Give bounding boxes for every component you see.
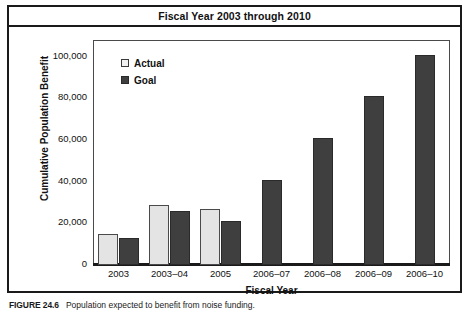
bar-group [399, 40, 450, 265]
legend-label-goal: Goal [134, 75, 156, 86]
x-tick-label: 2006–09 [355, 268, 392, 279]
x-tick-label: 2003 [108, 268, 129, 279]
y-tick-label: 60,000 [58, 132, 87, 143]
bar-group [297, 40, 348, 265]
bar-goal [262, 180, 282, 265]
bar-actual [149, 205, 169, 265]
x-axis-tick-labels: 20032003–0420052006–072006–082006–092006… [93, 268, 450, 284]
x-tick-label: 2006–08 [304, 268, 341, 279]
chart-body: Cumulative Population Benefit 020,00040,… [9, 27, 460, 291]
bar-goal [221, 221, 241, 265]
chart-legend: Actual Goal [121, 55, 207, 89]
y-tick-label: 40,000 [58, 174, 87, 185]
y-tick-label: 20,000 [58, 216, 87, 227]
y-tick-label: 80,000 [58, 91, 87, 102]
bar-goal [415, 55, 435, 265]
y-axis-tick-labels: 020,00040,00060,00080,000100,000 [37, 60, 87, 245]
x-tick-label: 2006–10 [406, 268, 443, 279]
bar-goal [313, 138, 333, 265]
legend-swatch-actual-icon [121, 59, 129, 67]
legend-label-actual: Actual [134, 58, 165, 69]
legend-swatch-goal-icon [121, 76, 129, 84]
chart-title-bar: Fiscal Year 2003 through 2010 [9, 7, 460, 27]
y-tick-label: 0 [82, 258, 87, 269]
x-axis-title: Fiscal Year [93, 285, 450, 296]
bar-goal [119, 238, 139, 265]
x-tick-label: 2005 [210, 268, 231, 279]
x-tick-label: 2003–04 [151, 268, 188, 279]
bar-actual [200, 209, 220, 265]
bar-goal [364, 96, 384, 265]
bar-group [246, 40, 297, 265]
figure-caption-text: Population expected to benefit from nois… [66, 300, 255, 310]
legend-item-goal: Goal [121, 72, 207, 88]
x-tick-label: 2006–07 [253, 268, 290, 279]
figure-caption: FIGURE 24.6Population expected to benefi… [9, 300, 469, 315]
bar-group [348, 40, 399, 265]
y-tick-label: 100,000 [53, 49, 87, 60]
figure-caption-number: FIGURE 24.6 [9, 300, 59, 310]
figure-frame: Fiscal Year 2003 through 2010 Cumulative… [7, 5, 462, 293]
bar-actual [98, 234, 118, 265]
legend-item-actual: Actual [121, 55, 207, 71]
bar-goal [170, 211, 190, 265]
chart-title: Fiscal Year 2003 through 2010 [158, 10, 311, 22]
